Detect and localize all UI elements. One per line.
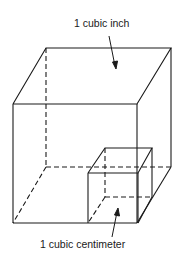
large-cube-label: 1 cubic inch xyxy=(74,17,129,29)
large-cube-hidden-bottom-left-edge xyxy=(13,167,46,223)
arrowhead-large-cube-icon xyxy=(113,61,118,69)
cube-comparison-diagram xyxy=(0,0,182,261)
large-cube-top-face xyxy=(13,48,171,104)
small-cube-bottom-right-edge xyxy=(138,197,152,223)
arrowhead-small-cube-icon xyxy=(115,208,120,216)
small-cube-label: 1 cubic centimeter xyxy=(40,238,125,250)
pointer-arrows xyxy=(109,36,120,237)
small-cube-hidden-bottom-left-edge xyxy=(88,197,105,223)
small-cube-top-face xyxy=(88,148,152,173)
small-cube xyxy=(88,148,152,223)
